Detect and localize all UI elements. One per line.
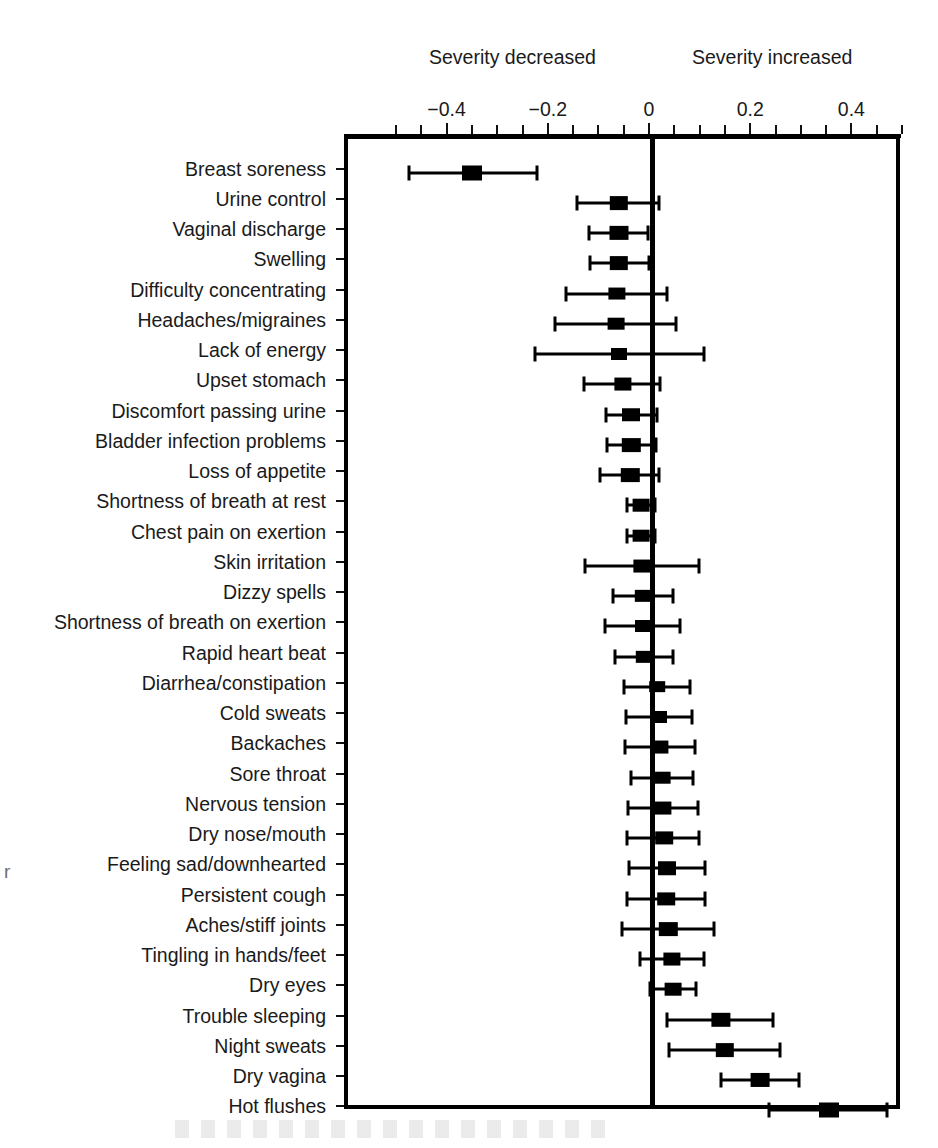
ci-cap-lower xyxy=(599,468,602,483)
ci-cap-upper xyxy=(654,498,657,513)
category-label: Bladder infection problems xyxy=(95,429,326,452)
ci-cap-upper xyxy=(779,1042,782,1057)
category-label: Breast soreness xyxy=(185,157,326,180)
point-estimate-marker xyxy=(659,922,677,936)
ci-cap-upper xyxy=(704,861,707,876)
category-label: Headaches/migraines xyxy=(137,308,326,331)
point-estimate-marker xyxy=(635,590,651,602)
x-tick-minor xyxy=(876,125,878,134)
category-label: Upset stomach xyxy=(196,369,326,392)
point-estimate-marker xyxy=(632,499,649,512)
category-label: Dry nose/mouth xyxy=(188,823,326,846)
ci-cap-upper xyxy=(658,468,661,483)
ci-cap-lower xyxy=(584,558,587,573)
ci-cap-upper xyxy=(690,710,693,725)
x-tick-minor xyxy=(420,125,422,134)
category-label: Tingling in hands/feet xyxy=(141,944,326,967)
x-tick-minor xyxy=(901,125,903,134)
ci-cap-lower xyxy=(623,679,626,694)
ci-cap-lower xyxy=(576,195,579,210)
ci-cap-upper xyxy=(688,679,691,694)
x-tick-label: 0.4 xyxy=(838,98,865,121)
point-estimate-marker xyxy=(622,438,640,452)
ci-cap-lower xyxy=(626,891,629,906)
category-label: Hot flushes xyxy=(228,1095,326,1118)
category-labels: Breast sorenessUrine controlVaginal disc… xyxy=(0,0,336,1148)
ci-cap-lower xyxy=(603,619,606,634)
point-estimate-marker xyxy=(819,1103,839,1118)
ci-cap-upper xyxy=(659,377,662,392)
ci-cap-lower xyxy=(627,800,630,815)
x-tick-major xyxy=(547,123,549,134)
ci-cap-lower xyxy=(649,982,652,997)
ci-cap-lower xyxy=(554,316,557,331)
point-estimate-marker xyxy=(651,741,668,754)
x-tick-major xyxy=(648,123,650,134)
ci-cap-upper xyxy=(703,952,706,967)
point-estimate-marker xyxy=(657,892,675,905)
category-label: Loss of appetite xyxy=(188,460,326,483)
ci-cap-upper xyxy=(702,347,705,362)
category-label: Trouble sleeping xyxy=(183,1004,326,1027)
x-tick-minor xyxy=(673,125,675,134)
category-label: Dry eyes xyxy=(249,974,326,997)
category-label: Backaches xyxy=(231,732,326,755)
ci-cap-lower xyxy=(612,589,615,604)
ci-cap-lower xyxy=(719,1073,722,1088)
x-tick-label: −0.4 xyxy=(427,98,466,121)
category-label: Sore throat xyxy=(230,762,326,785)
ci-cap-upper xyxy=(646,226,649,241)
ci-cap-lower xyxy=(564,286,567,301)
ci-cap-upper xyxy=(713,921,716,936)
point-estimate-marker xyxy=(665,983,682,996)
ci-cap-lower xyxy=(583,377,586,392)
ci-cap-lower xyxy=(626,528,629,543)
x-tick-minor xyxy=(471,125,473,134)
category-label: Rapid heart beat xyxy=(182,641,326,664)
point-estimate-marker xyxy=(655,831,673,844)
ci-cap-upper xyxy=(658,195,661,210)
ci-cap-upper xyxy=(656,407,659,422)
ci-cap-lower xyxy=(625,710,628,725)
ci-cap-lower xyxy=(626,831,629,846)
category-label: Skin irritation xyxy=(213,550,326,573)
x-tick-minor xyxy=(597,125,599,134)
ci-cap-upper xyxy=(672,649,675,664)
category-label: Nervous tension xyxy=(185,792,326,815)
point-estimate-marker xyxy=(658,862,676,876)
point-estimate-marker xyxy=(632,529,649,542)
category-label: Persistent cough xyxy=(181,883,326,906)
x-tick-minor xyxy=(522,125,524,134)
x-tick-major xyxy=(446,123,448,134)
ci-cap-upper xyxy=(666,286,669,301)
severity-decreased-label: Severity decreased xyxy=(429,46,596,69)
category-label: Dry vagina xyxy=(233,1065,326,1088)
point-estimate-marker xyxy=(655,801,672,814)
category-label: Night sweats xyxy=(214,1034,326,1057)
point-estimate-marker xyxy=(622,408,640,422)
ci-cap-lower xyxy=(614,649,617,664)
x-tick-minor xyxy=(724,125,726,134)
x-tick-minor xyxy=(395,125,397,134)
point-estimate-marker xyxy=(635,620,651,632)
category-label: Vaginal discharge xyxy=(172,218,326,241)
x-tick-major xyxy=(850,123,852,134)
ci-cap-upper xyxy=(885,1103,888,1118)
x-tick-minor xyxy=(825,125,827,134)
point-estimate-marker xyxy=(611,348,627,360)
ci-cap-lower xyxy=(604,407,607,422)
ci-cap-upper xyxy=(698,558,701,573)
ci-cap-upper xyxy=(691,770,694,785)
ci-cap-upper xyxy=(698,831,701,846)
ci-cap-lower xyxy=(534,347,537,362)
point-estimate-marker xyxy=(651,711,667,723)
forest-plot: Severity decreased Severity increased −0… xyxy=(0,0,938,1148)
ci-cap-lower xyxy=(668,1042,671,1057)
ci-cap-lower xyxy=(666,1012,669,1027)
category-label: Difficulty concentrating xyxy=(130,278,326,301)
ci-cap-upper xyxy=(536,165,539,180)
category-label: Lack of energy xyxy=(198,339,326,362)
point-estimate-marker xyxy=(609,226,628,240)
bottom-scan-artifact xyxy=(175,1120,605,1138)
ci-cap-lower xyxy=(605,437,608,452)
